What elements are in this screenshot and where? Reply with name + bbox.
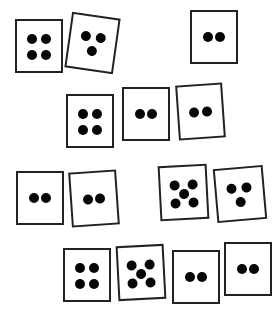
die-face-4 — [63, 248, 111, 302]
scene-description: Fourteen white dice with black pips scat… — [0, 0, 1, 1]
die-face-3 — [213, 165, 268, 223]
die-face-2 — [16, 171, 64, 225]
pip-dot — [92, 125, 102, 135]
pip-dot — [95, 193, 106, 204]
pip-dot — [241, 182, 252, 193]
pip-dot — [41, 34, 51, 44]
pip-dot — [170, 198, 181, 209]
pip-dot — [75, 279, 85, 289]
pip-dot — [41, 50, 51, 60]
pip-dot — [169, 180, 180, 191]
die-face-2 — [224, 242, 272, 296]
pip-dot — [127, 278, 138, 289]
die-face-2 — [122, 87, 170, 141]
pip-dot — [197, 272, 207, 282]
pip-dot — [95, 32, 106, 43]
pip-dot — [86, 46, 97, 57]
pip-dot — [188, 197, 199, 208]
pip-dot — [29, 193, 39, 203]
die-face-3 — [64, 12, 120, 74]
pip-dot — [78, 109, 88, 119]
die-face-4 — [66, 94, 114, 148]
pip-dot — [89, 263, 99, 273]
pip-dot — [147, 109, 157, 119]
die-face-5 — [158, 164, 210, 221]
pip-dot — [203, 32, 213, 42]
pip-dot — [185, 272, 195, 282]
die-face-4 — [15, 19, 63, 73]
pip-dot — [75, 263, 85, 273]
pip-dot — [201, 106, 212, 117]
pip-dot — [235, 197, 246, 208]
pip-dot — [136, 268, 147, 279]
die-face-2 — [68, 169, 120, 227]
pip-dot — [80, 30, 91, 41]
pip-dot — [92, 109, 102, 119]
pip-dot — [89, 279, 99, 289]
pip-dot — [135, 109, 145, 119]
pip-dot — [27, 34, 37, 44]
pip-dot — [178, 188, 189, 199]
pip-dot — [127, 260, 138, 271]
pip-dot — [226, 183, 237, 194]
pip-dot — [189, 107, 200, 118]
pip-dot — [187, 179, 198, 190]
pip-dot — [83, 194, 94, 205]
pip-dot — [237, 264, 247, 274]
pip-dot — [215, 32, 225, 42]
die-face-2 — [172, 250, 220, 304]
die-face-2 — [175, 82, 226, 140]
die-face-2 — [190, 10, 238, 64]
die-face-5 — [116, 244, 167, 301]
pip-dot — [144, 259, 155, 270]
pip-dot — [145, 277, 156, 288]
pip-dot — [27, 50, 37, 60]
pip-dot — [249, 264, 259, 274]
pip-dot — [78, 125, 88, 135]
pip-dot — [41, 193, 51, 203]
